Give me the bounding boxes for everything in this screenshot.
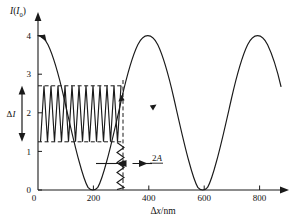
y-axis-label-paren-close: ) — [23, 6, 26, 17]
delta-I-letter: I — [11, 109, 16, 119]
amplitude-2A-letter: A — [156, 153, 163, 163]
curve-direction-arrow-2 — [150, 105, 157, 111]
y-tick-label-2: 2 — [27, 108, 32, 118]
y-tick-label-0: 0 — [27, 185, 32, 195]
x-tick-label-0: 0 — [32, 193, 37, 203]
y-tick-marks — [38, 36, 42, 190]
x-tick-label-600: 600 — [197, 193, 211, 203]
x-tick-label-200: 200 — [87, 193, 101, 203]
svg-text:Δx/nm: Δx/nm — [150, 206, 176, 216]
svg-text:I(I0): I(I0) — [9, 6, 26, 18]
interference-intensity-chart: 0 1 2 3 4 0 200 400 600 800 I(I0) Δx/nm — [0, 0, 298, 216]
curve-direction-arrow-1 — [118, 95, 124, 102]
oscillation-zigzag — [41, 86, 122, 142]
delta-I-label: ΔI — [7, 109, 17, 119]
y-tick-label-1: 1 — [27, 147, 32, 157]
y-axis — [35, 12, 42, 190]
y-tick-label-3: 3 — [27, 69, 32, 79]
x-axis-label: Δx/nm — [150, 206, 176, 216]
interference-curve — [38, 36, 281, 190]
y-axis-label: I(I0) — [9, 6, 26, 18]
x-tick-label-800: 800 — [253, 193, 267, 203]
y-tick-label-4: 4 — [27, 31, 32, 41]
delta-I-arrow — [19, 86, 26, 142]
x-axis — [38, 187, 289, 194]
x-axis-label-unit: /nm — [161, 206, 176, 216]
amplitude-2A-arrow — [96, 160, 152, 167]
x-tick-label-400: 400 — [142, 193, 156, 203]
amplitude-2A-label: 2A — [152, 153, 163, 163]
chart-canvas: 0 1 2 3 4 0 200 400 600 800 I(I0) Δx/nm — [0, 0, 298, 216]
